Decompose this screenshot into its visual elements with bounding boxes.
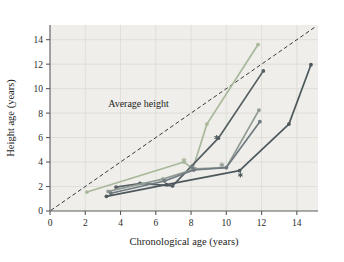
patient-5-point [238, 169, 242, 173]
y-axis-tick-label: 2 [38, 182, 43, 192]
patient-3-point [257, 108, 261, 112]
y-axis-tick-label: 4 [38, 157, 43, 167]
patient-1-point [205, 122, 209, 126]
patient-2-point [114, 185, 118, 189]
patient-5-point [164, 183, 168, 187]
x-axis-tick-label: 4 [118, 218, 123, 228]
y-axis-tick-label: 0 [38, 206, 43, 216]
patient-2-point [261, 69, 265, 73]
y-axis-tick-label: 10 [34, 84, 44, 94]
y-axis-tick-label: 14 [34, 35, 44, 45]
patient-4-point [258, 120, 262, 124]
x-axis-tick-label: 14 [292, 218, 302, 228]
patient-5-point [309, 63, 313, 67]
patient-5-point [287, 122, 291, 126]
y-axis-tick-label: 12 [34, 60, 44, 70]
average-height-label: Average height [108, 98, 169, 109]
patient-1-point [256, 43, 260, 47]
x-axis-tick-label: 2 [83, 218, 88, 228]
patient-5-point [105, 194, 109, 198]
x-axis-tick-label: 0 [48, 218, 53, 228]
patient-1-point [85, 190, 89, 194]
y-axis-tick-label: 8 [38, 109, 43, 119]
patient-4-point [224, 166, 228, 170]
patient-4-point [163, 179, 167, 183]
x-axis-tick-label: 10 [222, 218, 232, 228]
y-axis-title: Height age (years) [5, 79, 17, 157]
x-axis-tick-label: 6 [153, 218, 158, 228]
y-axis-tick-label: 6 [38, 133, 43, 143]
x-axis-tick-label: 8 [189, 218, 194, 228]
chart-svg: 0246810121402468101214Average heightChro… [0, 0, 344, 262]
x-axis-title: Chronological age (years) [129, 236, 239, 248]
growth-chart-figure: 0246810121402468101214Average heightChro… [0, 0, 344, 262]
x-axis-tick-label: 12 [257, 218, 267, 228]
